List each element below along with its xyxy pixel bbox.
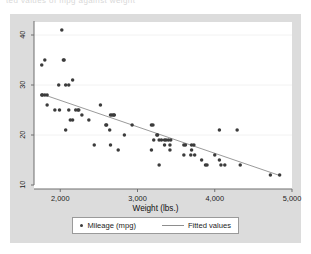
scatter-point	[74, 108, 78, 112]
scatter-point	[62, 58, 66, 62]
scatter-point	[40, 63, 44, 67]
scatter-point	[269, 173, 273, 177]
scatter-point	[150, 148, 154, 152]
x-tick-label: 3,000	[118, 195, 158, 202]
scatter-point	[193, 153, 197, 157]
scatter-point	[53, 108, 57, 112]
scatter-point	[93, 143, 97, 147]
scatter-point	[113, 113, 117, 117]
y-tick-label: 10	[19, 177, 26, 193]
scatter-point	[64, 128, 67, 132]
scatter-point	[168, 143, 172, 147]
scatter-point	[43, 58, 47, 62]
scatter-point	[60, 28, 64, 32]
scatter-point	[192, 143, 196, 147]
scatter-point	[157, 163, 161, 167]
scatter-point	[155, 133, 159, 137]
chart-legend: Mileage (mpg) Fitted values	[72, 217, 239, 234]
scatter-point	[58, 108, 62, 112]
scatter-point	[190, 148, 194, 152]
scatter-point	[108, 128, 112, 132]
scatter-point	[87, 118, 91, 122]
scatter-point	[200, 158, 204, 162]
legend-label-mileage: Mileage (mpg)	[87, 222, 136, 230]
scatter-point	[205, 163, 209, 167]
scatter-point	[80, 113, 84, 117]
legend-marker-line-icon	[162, 225, 184, 226]
scatter-point	[116, 148, 120, 152]
scatter-point	[152, 138, 156, 142]
scatter-point	[123, 133, 127, 137]
x-tick-label: 5,000	[272, 195, 311, 202]
legend-item-fitted-values[interactable]: Fitted values	[162, 222, 231, 230]
scatter-point	[182, 153, 186, 157]
scatter-point	[213, 153, 217, 157]
scatter-point	[105, 123, 109, 127]
graph-canvas: 10203040 2,0003,0004,0005,000 Weight (lb…	[10, 14, 301, 243]
scatter-point	[278, 173, 282, 177]
scatter-point	[151, 123, 155, 127]
scatter-point	[169, 138, 173, 142]
scatter-point	[184, 143, 188, 147]
scatter-point	[130, 123, 134, 127]
legend-marker-dot-icon	[80, 224, 83, 227]
x-axis-title: Weight (lbs.)	[10, 205, 301, 213]
scatter-point	[235, 128, 239, 132]
scatter-point	[45, 93, 49, 97]
scatter-point	[218, 128, 222, 132]
y-tick-label: 40	[19, 27, 26, 43]
scatter-point	[223, 163, 227, 167]
scatter-point	[57, 83, 61, 87]
scatter-point	[71, 78, 75, 82]
scatter-point	[67, 83, 71, 87]
clipped-caption-text: ted values of mpg against weight	[6, 0, 306, 5]
scatter-point	[69, 118, 73, 122]
scatter-point	[189, 153, 193, 157]
scatter-point	[163, 143, 167, 147]
scatter-point	[238, 163, 242, 167]
scatter-point	[160, 138, 164, 142]
x-tick-label: 2,000	[40, 195, 80, 202]
scatter-point	[218, 158, 222, 162]
scatter-point	[64, 83, 67, 87]
legend-label-fitted-values: Fitted values	[188, 222, 231, 230]
scatter-point	[67, 108, 71, 112]
scatter-point	[109, 143, 113, 147]
scatter-point	[99, 103, 103, 107]
legend-item-mileage[interactable]: Mileage (mpg)	[80, 222, 136, 230]
scatter-point	[109, 113, 113, 117]
y-tick-label: 30	[19, 77, 26, 93]
scatter-point	[45, 103, 49, 107]
scatter-point	[77, 108, 81, 112]
scatter-point	[168, 148, 172, 152]
x-tick-label: 4,000	[195, 195, 235, 202]
scatter-point	[219, 163, 223, 167]
scatter-point	[40, 93, 44, 97]
y-tick-label: 20	[19, 127, 26, 143]
